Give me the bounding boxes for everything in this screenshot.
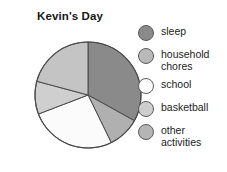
legend-item[interactable]: household chores [138,47,227,72]
legend-swatch-circle-icon [138,101,154,117]
pie-chart-figure: Kevin's Day sleephousehold choresschoolb… [0,0,227,172]
chart-title: Kevin's Day [0,10,140,22]
legend-swatch-circle-icon [138,124,154,140]
legend-label: household chores [161,47,209,72]
legend-label: basketball [161,100,208,114]
pie-chart-graphic [30,32,146,162]
legend-item[interactable]: basketball [138,100,227,118]
legend-item[interactable]: sleep [138,24,227,42]
legend-label: school [161,77,191,91]
legend-item[interactable]: other activities [138,123,227,148]
legend-label: sleep [161,24,186,38]
legend-item[interactable]: school [138,77,227,95]
legend-label: other activities [161,123,201,148]
chart-legend: sleephousehold choresschoolbasketballoth… [138,24,227,153]
pie-slice-group [35,42,141,148]
legend-swatch-circle-icon [138,48,154,64]
legend-swatch-circle-icon [138,25,154,41]
pie-svg [30,32,146,162]
legend-swatch-circle-icon [138,78,154,94]
